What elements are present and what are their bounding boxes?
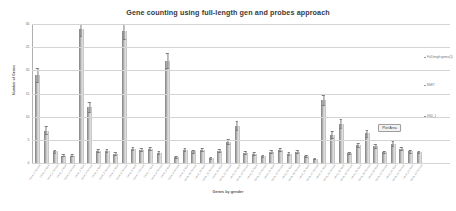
error-bar <box>339 119 342 128</box>
error-bar-cap-top <box>383 151 386 152</box>
error-bar <box>244 151 247 154</box>
error-bar-cap-bottom <box>322 105 325 106</box>
error-bar-cap-top <box>105 149 108 150</box>
error-bar-cap-bottom <box>400 150 403 151</box>
error-bar <box>417 151 420 154</box>
error-bar-cap-top <box>305 155 308 156</box>
error-bar <box>192 150 195 153</box>
error-bar-cap-bottom <box>149 150 152 151</box>
error-bar-cap-top <box>157 151 160 152</box>
legend-marker <box>424 57 426 58</box>
legend-item[interactable]: SSU_1 <box>424 115 436 119</box>
error-bar-cap-bottom <box>253 155 256 156</box>
y-tick-label: 30 <box>26 22 30 26</box>
y-tick-label: 0 <box>28 161 30 165</box>
error-bar-cap-top <box>357 143 360 144</box>
error-bar-cap-bottom <box>123 39 126 40</box>
error-bar-cap-bottom <box>383 153 386 154</box>
error-bar <box>140 148 143 151</box>
bar-fill <box>287 154 292 163</box>
x-axis-tick-labels: Gene_1 FemaleGene_1 MaleGene_2 FemaleGen… <box>33 164 423 190</box>
bar-fill <box>53 151 58 163</box>
error-bar-cap-top <box>296 150 299 151</box>
bar-fill <box>157 153 162 163</box>
error-bar-cap-top <box>97 149 100 150</box>
y-tick-label: 15 <box>26 92 30 96</box>
bar-fill <box>139 150 144 163</box>
bar-fill <box>347 153 352 163</box>
error-bar-stem <box>167 53 168 69</box>
error-bar-cap-bottom <box>279 151 282 152</box>
bar-fill <box>44 131 49 163</box>
error-bar-cap-top <box>391 141 394 142</box>
error-bar-cap-top <box>36 68 39 69</box>
error-bar <box>331 131 334 138</box>
error-bar <box>175 156 178 158</box>
error-bar <box>105 149 108 152</box>
error-bar-cap-bottom <box>287 155 290 156</box>
error-bar-cap-top <box>287 152 290 153</box>
chart-legend[interactable]: Full-length genes(1)NSETSSU_1 <box>424 0 456 211</box>
bar-fill <box>243 153 248 163</box>
y-tick-label: 25 <box>26 45 30 49</box>
bar-fill <box>35 75 40 163</box>
error-bar <box>183 148 186 151</box>
error-bar-cap-top <box>374 144 377 145</box>
chart-container[interactable]: Gene counting using full-length gen and … <box>0 0 456 211</box>
gridline-extended <box>32 70 450 71</box>
error-bar <box>279 148 282 151</box>
error-bar-cap-top <box>192 150 195 151</box>
error-bar-cap-bottom <box>348 154 351 155</box>
error-bar-cap-top <box>71 154 74 155</box>
error-bar-cap-top <box>218 149 221 150</box>
error-bar-stem <box>124 24 125 39</box>
bar-fill <box>252 154 257 163</box>
error-bar-cap-top <box>339 119 342 120</box>
error-bar <box>305 155 308 158</box>
legend-item[interactable]: NSET <box>424 84 435 88</box>
error-bar-cap-bottom <box>409 153 412 154</box>
error-bar-cap-bottom <box>201 151 204 152</box>
error-bar-cap-top <box>235 121 238 122</box>
bar-fill <box>365 133 370 163</box>
error-bar-cap-top <box>409 150 412 151</box>
error-bar <box>209 157 212 159</box>
error-bar-cap-top <box>140 148 143 149</box>
error-bar <box>322 95 325 106</box>
error-bar <box>45 126 48 134</box>
error-bar <box>348 152 351 155</box>
error-bar-stem <box>80 24 81 37</box>
error-bar <box>253 152 256 155</box>
bar-fill <box>191 151 196 163</box>
error-bar-cap-bottom <box>270 153 273 154</box>
error-bar-cap-bottom <box>71 156 74 157</box>
error-bar <box>62 154 65 157</box>
error-bar <box>287 152 290 155</box>
bar-fill <box>295 152 300 163</box>
bar-fill <box>131 149 136 163</box>
error-bar <box>365 130 368 137</box>
error-bar-cap-bottom <box>36 82 39 83</box>
error-bar <box>235 121 238 130</box>
error-bar <box>374 144 377 149</box>
error-bar-cap-bottom <box>339 128 342 129</box>
error-bar-cap-top <box>244 151 247 152</box>
bar-fill <box>321 100 326 163</box>
bar-fill <box>399 149 404 163</box>
legend-item[interactable]: Full-length genes(1) <box>424 56 453 60</box>
error-bar-cap-top <box>53 150 56 151</box>
bar-fill <box>235 126 240 163</box>
error-bar <box>357 143 360 148</box>
error-bar-cap-top <box>62 154 65 155</box>
error-bar-cap-bottom <box>175 158 178 159</box>
error-bar-cap-bottom <box>105 152 108 153</box>
bar-fill <box>183 150 188 163</box>
error-bar-cap-bottom <box>45 134 48 135</box>
error-bar <box>391 141 394 146</box>
bar-fill <box>217 151 222 163</box>
error-bar-cap-top <box>114 152 117 153</box>
y-tick-label: 5 <box>28 138 30 142</box>
error-bar-cap-top <box>131 147 134 148</box>
error-bar-cap-bottom <box>97 152 100 153</box>
error-bar-cap-top <box>45 126 48 127</box>
